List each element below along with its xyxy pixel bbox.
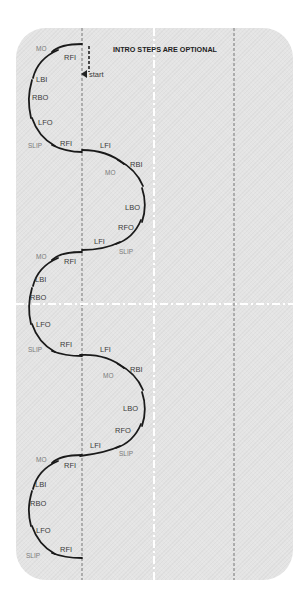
svg-text:RFI: RFI <box>64 461 76 470</box>
svg-text:SLIP: SLIP <box>28 346 42 353</box>
svg-text:RBI: RBI <box>130 365 143 374</box>
svg-text:SLIP: SLIP <box>119 450 133 457</box>
intro-note: INTRO STEPS ARE OPTIONAL <box>113 45 218 54</box>
svg-text:RFI: RFI <box>64 53 76 62</box>
svg-text:LBI: LBI <box>36 75 47 84</box>
svg-text:MO: MO <box>103 372 113 379</box>
svg-text:RFO: RFO <box>118 223 134 232</box>
svg-text:LBO: LBO <box>125 203 140 212</box>
svg-text:RBO: RBO <box>32 93 48 102</box>
svg-text:LFI: LFI <box>94 237 105 246</box>
svg-text:MO: MO <box>36 45 46 52</box>
svg-text:RFO: RFO <box>115 426 131 435</box>
svg-text:LFO: LFO <box>36 320 51 329</box>
svg-text:RBO: RBO <box>30 293 46 302</box>
svg-text:LFI: LFI <box>100 345 111 354</box>
svg-text:LBI: LBI <box>35 275 46 284</box>
svg-text:RFI: RFI <box>60 545 72 554</box>
svg-text:RFI: RFI <box>64 257 76 266</box>
lobe-1-left: MO RFI LBI RBO LFO SLIP RFI <box>28 44 82 152</box>
lobe-2-right: LFI MO RBI LBO RFO LFI SLIP <box>82 141 145 255</box>
svg-text:RBI: RBI <box>130 160 143 169</box>
svg-text:LBI: LBI <box>35 480 46 489</box>
svg-text:LFO: LFO <box>38 118 53 127</box>
svg-text:RFI: RFI <box>60 340 72 349</box>
svg-text:LBO: LBO <box>123 404 138 413</box>
svg-text:LFO: LFO <box>36 526 51 535</box>
svg-text:LFI: LFI <box>100 141 111 150</box>
svg-text:SLIP: SLIP <box>26 552 40 559</box>
svg-text:LFI: LFI <box>90 441 101 450</box>
svg-text:MO: MO <box>36 253 46 260</box>
svg-text:MO: MO <box>105 169 115 176</box>
svg-text:SLIP: SLIP <box>28 142 42 149</box>
svg-text:SLIP: SLIP <box>119 248 133 255</box>
svg-text:RBO: RBO <box>30 499 46 508</box>
svg-text:RFI: RFI <box>60 139 72 148</box>
skating-pattern-diagram: start INTRO STEPS ARE OPTIONAL MO RFI LB… <box>0 0 306 611</box>
start-label: start <box>89 70 105 79</box>
lobe-5-left: MO RFI LBI RBO LFO SLIP RFI <box>26 455 82 559</box>
start-arrow-icon <box>81 70 87 78</box>
lobe-4-right: LFI MO RBI LBO RFO LFI SLIP <box>80 345 145 457</box>
svg-text:MO: MO <box>36 456 46 463</box>
